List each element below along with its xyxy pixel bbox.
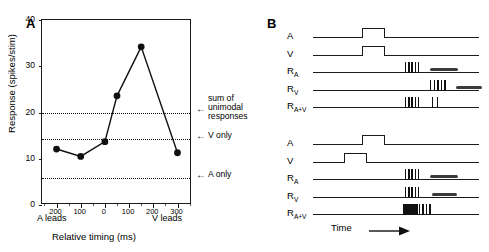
x-axis-right-note: V leads	[152, 213, 182, 223]
trace-label-ra: RA	[287, 65, 298, 78]
trace-label-subscript: V	[294, 88, 298, 95]
series-line	[57, 47, 178, 157]
trace-baseline	[313, 107, 479, 108]
spike-mark	[437, 97, 438, 108]
panel-a-y-axis-title: Response (spikes/stim)	[6, 9, 17, 159]
y-tick-label: 10	[13, 153, 35, 163]
annotation-arrow-a-only: ←	[196, 170, 206, 180]
figure-root: A Response (spikes/stim) 010203040 20010…	[0, 0, 489, 252]
spike-mark	[434, 80, 435, 91]
x-tick-minor	[117, 204, 118, 206]
spike-mark	[415, 169, 416, 180]
stimulus-pulse	[362, 135, 385, 145]
annotation-arrow-v-only: ←	[196, 131, 206, 141]
spike-mark	[419, 204, 420, 215]
stimulus-pulse	[344, 153, 367, 163]
spike-mark	[418, 97, 419, 108]
panel-a-plot-area	[41, 19, 191, 204]
trace-label-v: V	[287, 48, 293, 59]
trace-label-subscript: V	[294, 195, 298, 202]
y-tick	[39, 113, 43, 114]
data-point-marker	[77, 153, 84, 160]
data-point-marker	[53, 146, 60, 153]
x-tick-label: 0	[93, 207, 115, 216]
x-tick-minor	[69, 204, 70, 206]
y-tick	[39, 205, 43, 206]
trace-label-subscript: A	[294, 178, 298, 185]
data-point-marker	[174, 149, 181, 156]
spike-mark	[408, 97, 409, 108]
spike-mark	[405, 62, 406, 73]
spike-mark	[432, 97, 433, 108]
spike-mark	[441, 80, 442, 91]
time-arrow-icon	[369, 225, 411, 237]
trace-label-ra: RA	[287, 172, 298, 185]
y-tick	[39, 66, 43, 67]
trace-baseline	[313, 37, 479, 38]
y-tick-label: 40	[13, 14, 35, 24]
trace-baseline	[313, 179, 479, 180]
sustained-response-bar	[432, 193, 457, 196]
annotation-v-only: V only	[208, 131, 232, 141]
spike-mark	[411, 169, 412, 180]
trace-baseline	[313, 144, 479, 145]
spike-mark	[408, 169, 409, 180]
spike-mark	[437, 80, 438, 91]
spike-mark	[415, 204, 418, 215]
trace-baseline	[313, 90, 479, 91]
y-tick	[39, 20, 43, 21]
trace-label-v: V	[287, 155, 293, 166]
spike-mark	[426, 204, 427, 215]
y-tick-label: 20	[13, 107, 35, 117]
x-tick-minor	[44, 204, 45, 206]
x-tick-label: 100	[69, 207, 91, 216]
time-axis-label: Time	[331, 222, 352, 233]
trace-baseline	[313, 197, 479, 198]
x-tick-minor	[93, 204, 94, 206]
x-tick-minor	[190, 204, 191, 206]
stimulus-pulse	[362, 46, 385, 56]
annotation-arrow-sum: ←	[196, 104, 206, 114]
spike-mark	[429, 204, 430, 215]
trace-label-a: A	[287, 137, 293, 148]
trace-baseline	[313, 72, 479, 73]
trace-label-subscript: A+V	[294, 213, 307, 220]
panel-a-data-series	[42, 20, 192, 205]
trace-baseline	[313, 214, 479, 215]
spike-mark	[405, 97, 406, 108]
spike-mark	[415, 62, 416, 73]
spike-mark	[422, 204, 423, 215]
panel-a: A Response (spikes/stim) 010203040 20010…	[0, 0, 245, 252]
trace-label-rv: RV	[287, 83, 298, 96]
y-tick-label: 0	[13, 199, 35, 209]
spike-mark	[418, 169, 419, 180]
trace-label-a: A	[287, 30, 293, 41]
x-tick-minor	[165, 204, 166, 206]
panel-b-letter: B	[267, 16, 276, 31]
spike-mark	[405, 169, 406, 180]
y-tick-label: 30	[13, 60, 35, 70]
x-tick-minor	[141, 204, 142, 206]
sustained-response-bar	[430, 175, 458, 178]
trace-baseline	[313, 55, 479, 56]
trace-label-subscript: A+V	[294, 106, 307, 113]
trace-baseline	[313, 162, 479, 163]
data-point-marker	[114, 92, 121, 99]
spike-mark	[411, 62, 412, 73]
data-point-marker	[138, 43, 145, 50]
spike-mark	[418, 187, 419, 198]
x-tick-label: 100	[117, 207, 139, 216]
trace-label-rv: RV	[287, 190, 298, 203]
spike-mark	[405, 187, 406, 198]
x-axis-left-note: A leads	[37, 213, 67, 223]
stimulus-pulse	[362, 28, 385, 38]
trace-label-ra-v: RA+V	[287, 207, 307, 220]
trace-label-ra-v: RA+V	[287, 100, 307, 113]
sustained-response-bar	[456, 86, 482, 89]
spike-mark	[415, 97, 416, 108]
trace-label-subscript: A	[294, 71, 298, 78]
sustained-response-bar	[430, 68, 458, 71]
y-tick	[39, 159, 43, 160]
spike-mark	[430, 80, 431, 91]
data-point-marker	[102, 138, 109, 145]
